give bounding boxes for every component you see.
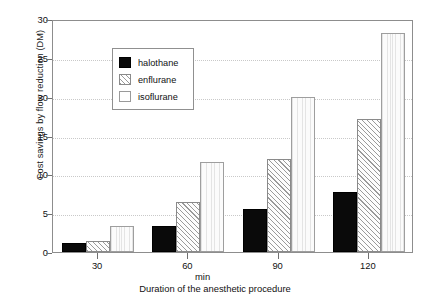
chart-legend: halothane enflurane isoflurane (112, 48, 194, 110)
legend-swatch-halothane (119, 57, 131, 68)
legend-label-enflurane: enflurane (138, 75, 176, 85)
bar-enflurane-30 (86, 241, 110, 252)
bar-isoflurane-60 (200, 162, 224, 252)
y-axis-tick-label: 0 (20, 247, 48, 258)
x-axis-unit-label: min (195, 271, 210, 282)
x-axis-tick-mark (278, 253, 279, 259)
y-axis-tick-label: 10 (20, 169, 48, 180)
x-axis-tick-mark (368, 253, 369, 259)
bar-isoflurane-30 (110, 226, 134, 252)
plot-area: halothane enflurane isoflurane (52, 20, 413, 253)
y-axis-tick-label: 20 (20, 92, 48, 103)
y-axis-title: Cost savings by flow reduction (DM) (35, 0, 45, 215)
bar-halothane-90 (243, 209, 267, 252)
bar-series-layer (53, 21, 412, 252)
bar-halothane-120 (333, 192, 357, 252)
y-axis-tick-label: 5 (20, 208, 48, 219)
x-axis-tick-label: 90 (248, 260, 308, 271)
bar-halothane-30 (62, 243, 86, 252)
bar-isoflurane-90 (291, 97, 315, 252)
x-axis-tick-mark (187, 253, 188, 259)
y-axis-tick-mark (46, 253, 52, 254)
legend-swatch-enflurane (119, 74, 131, 85)
bar-enflurane-60 (176, 202, 200, 252)
bar-enflurane-90 (267, 159, 291, 252)
bar-enflurane-120 (357, 119, 381, 252)
legend-label-halothane: halothane (138, 58, 178, 68)
legend-item-enflurane: enflurane (113, 71, 193, 88)
legend-item-isoflurane: isoflurane (113, 88, 193, 105)
y-axis-tick-label: 15 (20, 131, 48, 142)
x-axis-tick-label: 120 (338, 260, 398, 271)
bar-chart-figure: Cost savings by flow reduction (DM) 0510… (0, 0, 430, 302)
x-axis-tick-label: 60 (157, 260, 217, 271)
x-axis-title: Duration of the anesthetic procedure (0, 283, 430, 294)
bar-halothane-60 (152, 226, 176, 252)
bar-isoflurane-120 (381, 33, 405, 252)
legend-label-isoflurane: isoflurane (138, 92, 178, 102)
x-axis-tick-mark (97, 253, 98, 259)
x-axis-tick-label: 30 (67, 260, 127, 271)
y-axis-tick-label: 25 (20, 53, 48, 64)
y-axis-tick-label: 30 (20, 14, 48, 25)
legend-item-halothane: halothane (113, 54, 193, 71)
legend-swatch-isoflurane (119, 91, 131, 102)
